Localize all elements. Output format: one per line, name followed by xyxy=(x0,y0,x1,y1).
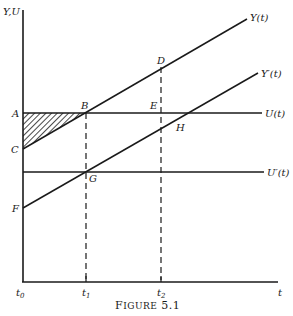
curve-label-u-prime: U′(t) xyxy=(267,167,290,178)
point-label-d: D xyxy=(156,55,165,66)
point-label-c: C xyxy=(11,144,19,155)
tick-label-t0: t0 xyxy=(16,287,25,300)
point-label-a: A xyxy=(11,108,19,119)
point-label-f: F xyxy=(11,203,20,214)
curve-y-prime xyxy=(23,73,258,208)
figure-caption: FIGURE5.1 xyxy=(115,299,180,312)
curve-label-y: Y(t) xyxy=(250,12,269,23)
y-axis-label: Y,U xyxy=(3,6,20,17)
x-axis-label: t xyxy=(278,287,283,298)
point-label-h: H xyxy=(175,122,185,133)
point-label-e: E xyxy=(149,100,158,111)
curve-y xyxy=(23,19,247,149)
curve-label-u: U(t) xyxy=(265,108,285,119)
figure-5-1: Y,U t t0 t1 t2 Y(t) Y′(t) U(t) U′(t) A B… xyxy=(0,0,293,316)
point-label-g: G xyxy=(89,173,97,184)
curve-label-y-prime: Y′(t) xyxy=(261,68,282,79)
tick-label-t1: t1 xyxy=(82,287,91,300)
point-label-b: B xyxy=(80,100,88,111)
